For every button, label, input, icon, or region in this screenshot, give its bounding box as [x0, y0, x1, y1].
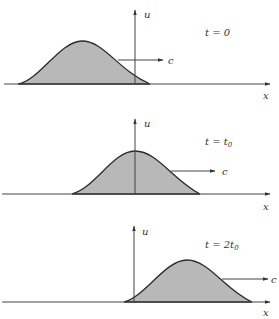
- wave-pulse: [18, 41, 150, 84]
- speed-label: c: [168, 55, 174, 66]
- x-axis-label: x: [263, 90, 269, 101]
- wave-diagram: u c x t = 0 u c x t = t0 u c x t = 2t0: [0, 0, 279, 319]
- speed-label: c: [222, 166, 228, 177]
- panel-t2: u c x t = 2t0: [2, 226, 277, 318]
- x-axis-label: x: [263, 201, 269, 212]
- wave-pulse: [124, 260, 252, 302]
- speed-label: c: [271, 274, 277, 285]
- u-axis-label: u: [142, 226, 148, 237]
- wave-pulse: [72, 151, 200, 194]
- panel-t1: u c x t = t0: [2, 118, 270, 212]
- panel-t0: u c x t = 0: [4, 9, 270, 101]
- time-label: t = 2t0: [205, 239, 239, 252]
- time-label: t = 0: [205, 27, 231, 38]
- u-axis-label: u: [144, 118, 150, 129]
- u-axis-label: u: [144, 9, 150, 20]
- time-label: t = t0: [205, 136, 233, 149]
- x-axis-label: x: [263, 307, 269, 318]
